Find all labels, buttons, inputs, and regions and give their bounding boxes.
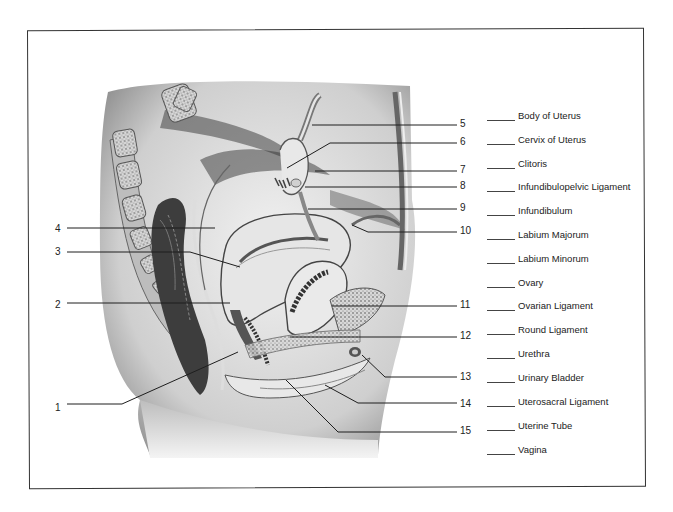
word-bank-item: Uterosacral Ligament [487, 396, 608, 407]
leader-line-14 [325, 385, 457, 403]
callout-number-8: 8 [460, 181, 466, 191]
word-bank-item: Uterine Tube [487, 420, 572, 431]
answer-blank[interactable] [487, 136, 515, 145]
word-bank-item: Body of Uterus [487, 110, 581, 121]
term-label: Urinary Bladder [518, 372, 584, 383]
callout-number-9: 9 [460, 203, 466, 213]
term-label: Cervix of Uterus [518, 134, 586, 145]
term-label: Body of Uterus [518, 110, 581, 121]
answer-blank[interactable] [487, 279, 515, 288]
callout-number-1: 1 [55, 403, 61, 413]
term-label: Labium Majorum [518, 229, 589, 240]
callout-number-15: 15 [460, 426, 471, 436]
term-label: Vagina [518, 444, 547, 455]
word-bank-item: Labium Minorum [487, 253, 589, 264]
word-bank-item: Labium Majorum [487, 229, 589, 240]
word-bank-item: Infundibulopelvic Ligament [487, 181, 631, 192]
word-bank-item: Infundibulum [487, 205, 572, 216]
callout-number-13: 13 [460, 372, 471, 382]
callout-number-5: 5 [460, 119, 466, 129]
answer-blank[interactable] [487, 160, 515, 169]
term-label: Infundibulopelvic Ligament [518, 181, 631, 192]
callout-number-6: 6 [460, 137, 466, 147]
term-label: Clitoris [518, 158, 547, 169]
word-bank-item: Urethra [487, 348, 550, 359]
leader-line-10 [352, 225, 457, 232]
leader-line-3 [67, 252, 240, 267]
leader-line-1 [67, 352, 238, 404]
callout-number-4: 4 [55, 224, 61, 234]
term-label: Ovary [518, 277, 543, 288]
term-label: Infundibulum [518, 205, 572, 216]
word-bank-item: Clitoris [487, 158, 547, 169]
leader-line-6 [287, 143, 457, 168]
word-bank-item: Round Ligament [487, 324, 588, 335]
answer-blank[interactable] [487, 374, 515, 383]
callout-number-2: 2 [55, 300, 61, 310]
callout-number-14: 14 [460, 399, 471, 409]
word-bank-item: Vagina [487, 444, 547, 455]
callout-number-3: 3 [55, 247, 61, 257]
callout-number-10: 10 [460, 226, 471, 236]
term-label: Labium Minorum [518, 253, 589, 264]
answer-blank[interactable] [487, 255, 515, 264]
answer-blank[interactable] [487, 446, 515, 455]
word-bank-item: Ovary [487, 277, 543, 288]
term-label: Uterosacral Ligament [518, 396, 608, 407]
answer-blank[interactable] [487, 422, 515, 431]
answer-blank[interactable] [487, 207, 515, 216]
word-bank-item: Cervix of Uterus [487, 134, 586, 145]
answer-blank[interactable] [487, 350, 515, 359]
term-label: Uterine Tube [518, 420, 572, 431]
callout-number-7: 7 [460, 165, 466, 175]
answer-blank[interactable] [487, 231, 515, 240]
answer-blank[interactable] [487, 183, 515, 192]
answer-blank[interactable] [487, 398, 515, 407]
callout-number-12: 12 [460, 331, 471, 341]
answer-blank[interactable] [487, 112, 515, 121]
word-bank-item: Ovarian Ligament [487, 300, 593, 311]
term-label: Round Ligament [518, 324, 588, 335]
leader-line-13 [362, 355, 457, 377]
word-bank-item: Urinary Bladder [487, 372, 584, 383]
term-label: Urethra [518, 348, 550, 359]
answer-blank[interactable] [487, 302, 515, 311]
leader-line-15 [286, 380, 457, 432]
answer-blank[interactable] [487, 326, 515, 335]
callout-number-11: 11 [460, 300, 470, 310]
term-label: Ovarian Ligament [518, 300, 593, 311]
